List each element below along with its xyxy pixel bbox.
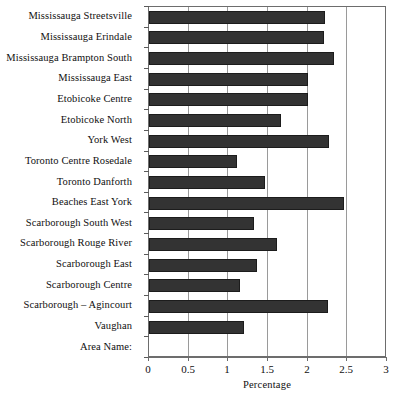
category-label: Vaughan (0, 320, 132, 331)
bars-layer (149, 7, 385, 356)
bar (149, 197, 344, 210)
bar (149, 217, 254, 230)
bar (149, 238, 277, 251)
bar-chart: Mississauga StreetsvilleMississauga Erin… (0, 0, 394, 404)
category-label: Toronto Danforth (0, 176, 132, 187)
category-label: Scarborough East (0, 258, 132, 269)
category-label: Etobicoke North (0, 114, 132, 125)
y-axis-tick (144, 130, 149, 131)
category-label: Toronto Centre Rosedale (0, 155, 132, 166)
x-axis-tick (386, 357, 387, 361)
category-label: Mississauga Erindale (0, 31, 132, 42)
y-axis-tick (144, 316, 149, 317)
y-axis-tick (144, 295, 149, 296)
x-axis-tick (227, 357, 228, 361)
category-label: Etobicoke Centre (0, 93, 132, 104)
bar (149, 114, 281, 127)
bar (149, 11, 325, 24)
category-label: Mississauga East (0, 72, 132, 83)
x-axis-tick (346, 357, 347, 361)
x-axis-tick (148, 357, 149, 361)
y-axis-tick (144, 233, 149, 234)
bar (149, 259, 257, 272)
y-axis-tick (144, 274, 149, 275)
bar (149, 279, 240, 292)
category-label: Beaches East York (0, 196, 132, 207)
bar (149, 176, 265, 189)
y-axis-tick (144, 68, 149, 69)
category-label: Area Name: (0, 341, 132, 352)
category-label: Scarborough Centre (0, 279, 132, 290)
x-axis-title: Percentage (148, 379, 386, 391)
y-axis-tick (144, 192, 149, 193)
x-axis-tick-label: 2 (292, 363, 322, 375)
bar (149, 52, 334, 65)
y-axis-tick (144, 212, 149, 213)
x-axis-tick-label: 3 (371, 363, 394, 375)
x-axis-tick-label: 1 (212, 363, 242, 375)
y-axis-tick (144, 47, 149, 48)
bar (149, 31, 324, 44)
category-axis-labels: Mississauga StreetsvilleMississauga Erin… (0, 6, 140, 357)
y-axis-tick (144, 151, 149, 152)
bar (149, 155, 237, 168)
x-axis-tick-label: 0 (133, 363, 163, 375)
y-axis-tick (144, 89, 149, 90)
x-axis-tick-label: 2.5 (331, 363, 361, 375)
y-axis-tick (144, 336, 149, 337)
bar (149, 135, 329, 148)
category-label: Mississauga Brampton South (0, 52, 132, 63)
x-axis-tick (307, 357, 308, 361)
category-label: Scarborough South West (0, 217, 132, 228)
y-axis-tick (144, 6, 149, 7)
category-label: York West (0, 134, 132, 145)
x-axis-tick (188, 357, 189, 361)
y-axis-tick (144, 27, 149, 28)
bar (149, 300, 328, 313)
x-axis-tick-label: 0.5 (173, 363, 203, 375)
category-label: Scarborough – Agincourt (0, 299, 132, 310)
category-label: Mississauga Streetsville (0, 10, 132, 21)
y-axis-tick (144, 254, 149, 255)
y-axis-tick (144, 171, 149, 172)
bar (149, 321, 244, 334)
plot-area (148, 6, 386, 357)
y-axis-tick (144, 109, 149, 110)
category-label: Scarborough Rouge River (0, 237, 132, 248)
x-axis-tick-label: 1.5 (252, 363, 282, 375)
bar (149, 93, 308, 106)
x-axis-tick (267, 357, 268, 361)
bar (149, 73, 308, 86)
